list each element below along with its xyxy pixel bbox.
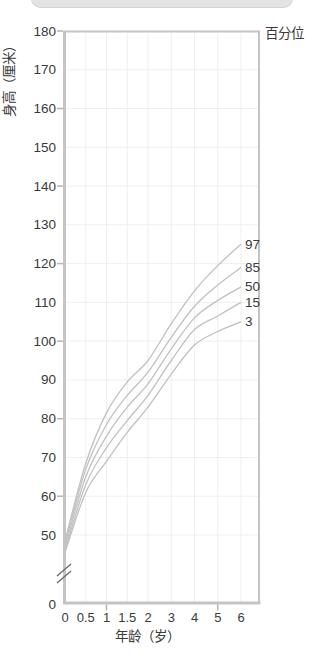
growth-chart-screen: 1801701601501401301201101009080706050000… bbox=[0, 0, 324, 666]
percentile-curve bbox=[65, 287, 241, 548]
y-tick-label: 70 bbox=[41, 450, 56, 465]
axis-ticks bbox=[57, 31, 218, 611]
percentile-curve bbox=[65, 302, 241, 550]
y-tick-label: 140 bbox=[33, 179, 56, 194]
y-tick-label: 50 bbox=[41, 528, 56, 543]
x-tick-label: 4 bbox=[191, 610, 198, 625]
x-tick-label: 6 bbox=[237, 610, 244, 625]
y-tick-label: 130 bbox=[33, 217, 56, 232]
x-tick-label: 1.5 bbox=[118, 610, 136, 625]
y-tick-label: 110 bbox=[34, 295, 56, 310]
percentile-legend-label: 百分位 bbox=[265, 26, 304, 41]
percentile-curve-label: 15 bbox=[245, 295, 260, 310]
percentile-curve-label: 97 bbox=[245, 237, 260, 252]
x-axis-title: 年龄（岁） bbox=[115, 629, 180, 644]
percentile-curve-label: 3 bbox=[245, 314, 253, 329]
percentile-curve-label: 50 bbox=[245, 279, 260, 294]
y-axis-title: 身高（厘米） bbox=[1, 39, 17, 117]
percentile-curve bbox=[65, 322, 241, 553]
y-tick-label: 170 bbox=[33, 62, 56, 77]
y-tick-label: 150 bbox=[33, 140, 56, 155]
y-tick-label: 100 bbox=[33, 334, 56, 349]
height-percentile-chart: 1801701601501401301201101009080706050000… bbox=[0, 0, 324, 666]
percentile-end-labels: 978550153 bbox=[245, 237, 260, 330]
y-tick-label: 180 bbox=[33, 24, 56, 39]
gridlines bbox=[66, 33, 258, 602]
percentile-curve-label: 85 bbox=[245, 260, 260, 275]
y-tick-label: 90 bbox=[41, 372, 56, 387]
y-tick-label: 120 bbox=[33, 256, 56, 271]
x-tick-label: 1 bbox=[103, 610, 110, 625]
x-tick-label: 5 bbox=[214, 610, 221, 625]
y-tick-label: 80 bbox=[41, 411, 56, 426]
y-tick-label: 160 bbox=[33, 101, 56, 116]
x-tick-label: 3 bbox=[168, 610, 175, 625]
percentile-curve bbox=[65, 268, 241, 545]
percentile-curves bbox=[65, 244, 241, 552]
x-tick-label: 2 bbox=[144, 610, 151, 625]
y-tick-label: 60 bbox=[41, 489, 56, 504]
x-tick-label: 0 bbox=[61, 610, 68, 625]
x-tick-label: 0.5 bbox=[77, 610, 95, 625]
y-tick-label: 0 bbox=[48, 597, 56, 612]
